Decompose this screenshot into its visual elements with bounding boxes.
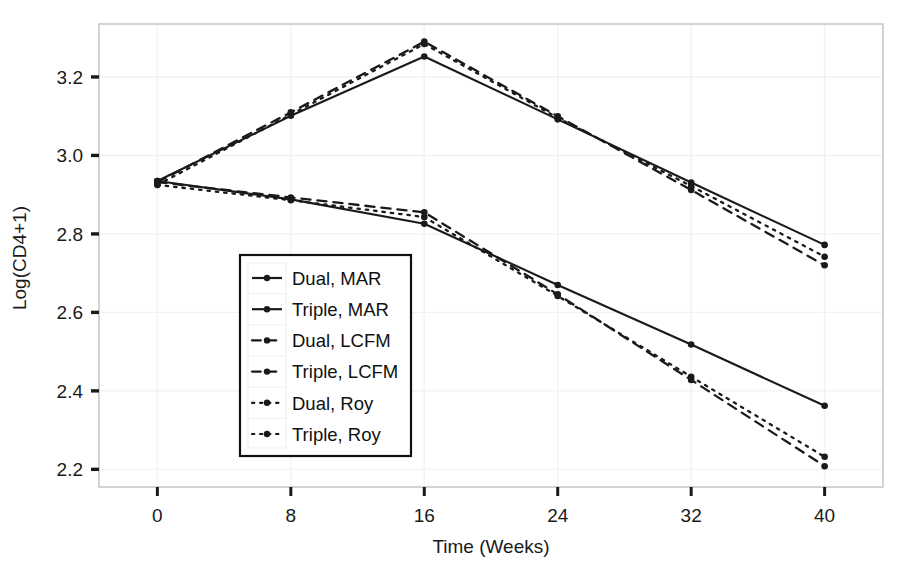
legend-item-label: Triple, MAR bbox=[292, 299, 389, 320]
legend-key-marker bbox=[264, 275, 270, 281]
data-point bbox=[554, 114, 561, 121]
y-tick-label-3.0: 3.0 bbox=[57, 145, 83, 166]
data-point bbox=[554, 293, 561, 300]
data-point bbox=[154, 182, 161, 189]
y-tick-label-2.2: 2.2 bbox=[57, 459, 83, 480]
x-axis-title: Time (Weeks) bbox=[432, 536, 549, 557]
data-point bbox=[688, 341, 695, 348]
y-tick-label-3.2: 3.2 bbox=[57, 67, 83, 88]
y-tick-label-2.6: 2.6 bbox=[57, 302, 83, 323]
chart-container: 2.22.42.62.83.03.2 0816243240 Time (Week… bbox=[0, 0, 904, 584]
x-tick-label-40: 40 bbox=[814, 505, 835, 526]
cd4-trajectory-line-chart: 2.22.42.62.83.03.2 0816243240 Time (Week… bbox=[0, 0, 904, 584]
legend-key-marker bbox=[264, 431, 270, 437]
chart-legend: Dual, MARTriple, MARDual, LCFMTriple, LC… bbox=[240, 255, 411, 456]
legend-key-marker bbox=[264, 306, 270, 312]
data-point bbox=[821, 253, 828, 260]
data-point bbox=[421, 220, 428, 227]
data-point bbox=[421, 214, 428, 221]
legend-key-marker bbox=[264, 337, 270, 343]
legend-item-label: Triple, Roy bbox=[292, 424, 382, 445]
y-tick-label-2.8: 2.8 bbox=[57, 224, 83, 245]
legend-item-label: Dual, Roy bbox=[292, 393, 374, 414]
data-point bbox=[288, 111, 295, 118]
legend-item-label: Dual, LCFM bbox=[292, 330, 391, 351]
data-point bbox=[688, 373, 695, 380]
x-tick-label-8: 8 bbox=[286, 505, 297, 526]
data-point bbox=[821, 262, 828, 269]
y-tick-label-2.4: 2.4 bbox=[57, 381, 84, 402]
chart-background bbox=[0, 0, 904, 584]
data-point bbox=[288, 197, 295, 204]
data-point bbox=[421, 53, 428, 60]
legend-key-marker bbox=[264, 368, 270, 374]
x-tick-label-0: 0 bbox=[152, 505, 163, 526]
legend-item-label: Dual, MAR bbox=[292, 268, 381, 289]
data-point bbox=[821, 453, 828, 460]
data-point bbox=[421, 41, 428, 48]
y-axis-title: Log(CD4+1) bbox=[9, 206, 30, 310]
x-tick-label-16: 16 bbox=[414, 505, 435, 526]
data-point bbox=[821, 242, 828, 249]
legend-key-marker bbox=[264, 400, 270, 406]
data-point bbox=[821, 402, 828, 409]
data-point bbox=[688, 183, 695, 190]
x-tick-label-24: 24 bbox=[547, 505, 569, 526]
data-point bbox=[821, 463, 828, 470]
data-point bbox=[554, 282, 561, 289]
x-tick-label-32: 32 bbox=[681, 505, 702, 526]
legend-item-label: Triple, LCFM bbox=[292, 361, 398, 382]
